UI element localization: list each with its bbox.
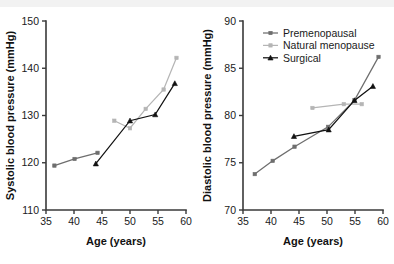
data-point-marker <box>162 88 165 91</box>
systolic-chart: 110120130140150354045505560Age (years)Sy… <box>0 7 197 264</box>
y-tick-label: 75 <box>224 156 236 168</box>
series-line-premenopausal <box>255 57 379 174</box>
series-line-natural-menopause <box>312 104 361 108</box>
panel-systolic: 110120130140150354045505560Age (years)Sy… <box>0 7 197 264</box>
x-tick-label: 35 <box>237 215 249 227</box>
data-point-marker <box>370 84 375 89</box>
x-tick-label: 50 <box>124 215 136 227</box>
series-line-surgical <box>294 86 373 136</box>
x-axis-title: Age (years) <box>86 235 146 247</box>
figure-two-panel: 110120130140150354045505560Age (years)Sy… <box>0 7 394 264</box>
x-axis-title: Age (years) <box>283 235 343 247</box>
x-tick-label: 35 <box>40 215 52 227</box>
x-tick-label: 55 <box>152 215 164 227</box>
y-axis-title: Systolic blood pressure (mmHg) <box>4 31 16 201</box>
x-tick-label: 40 <box>265 215 277 227</box>
y-tick-label: 85 <box>224 62 236 74</box>
data-point-marker <box>175 56 178 59</box>
diastolic-chart: 7075808590354045505560Age (years)Diastol… <box>197 7 394 264</box>
y-tick-label: 70 <box>224 204 236 216</box>
data-point-marker <box>360 102 363 105</box>
x-tick-label: 60 <box>180 215 192 227</box>
x-tick-label: 60 <box>377 215 389 227</box>
legend-label: Surgical <box>283 52 321 64</box>
data-point-marker <box>271 159 274 162</box>
y-tick-label: 110 <box>22 204 39 216</box>
data-point-marker <box>144 107 147 110</box>
data-point-marker <box>253 172 256 175</box>
legend-marker <box>269 31 272 34</box>
y-tick-label: 120 <box>21 156 39 168</box>
data-point-marker <box>128 127 131 130</box>
y-tick-label: 140 <box>21 62 39 74</box>
panel-diastolic: 7075808590354045505560Age (years)Diastol… <box>197 7 394 264</box>
top-band <box>0 0 394 7</box>
series-line-natural-menopause <box>114 58 176 128</box>
axis-lines <box>46 21 186 210</box>
data-point-marker <box>53 164 56 167</box>
legend-label: Premenopausal <box>283 27 357 39</box>
legend-label: Natural menopause <box>283 39 375 51</box>
data-point-marker <box>73 157 76 160</box>
data-point-marker <box>293 145 296 148</box>
x-tick-label: 45 <box>96 215 108 227</box>
data-point-marker <box>172 81 177 86</box>
data-point-marker <box>342 102 345 105</box>
data-point-marker <box>96 151 99 154</box>
series-line-surgical <box>96 83 175 163</box>
legend-marker <box>269 44 272 47</box>
y-tick-label: 130 <box>21 109 39 121</box>
data-point-marker <box>113 119 116 122</box>
y-tick-label: 90 <box>224 15 236 27</box>
x-tick-label: 55 <box>349 215 361 227</box>
data-point-marker <box>311 106 314 109</box>
y-tick-label: 80 <box>224 109 236 121</box>
y-tick-label: 150 <box>21 15 39 27</box>
data-point-marker <box>377 55 380 58</box>
x-tick-label: 45 <box>293 215 305 227</box>
x-tick-label: 50 <box>321 215 333 227</box>
x-tick-label: 40 <box>68 215 80 227</box>
y-axis-title: Diastolic blood pressure (mmHg) <box>201 29 213 202</box>
